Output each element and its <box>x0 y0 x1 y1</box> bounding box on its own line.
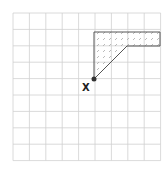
hatched-region <box>94 32 160 79</box>
point-x-dot <box>92 77 97 82</box>
point-x-label: X <box>82 82 90 93</box>
grid-diagram: X <box>0 0 168 172</box>
